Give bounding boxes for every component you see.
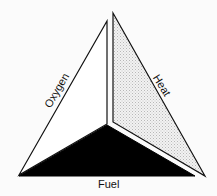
fire-triangle-diagram xyxy=(0,0,217,196)
fuel-label: Fuel xyxy=(98,179,119,190)
